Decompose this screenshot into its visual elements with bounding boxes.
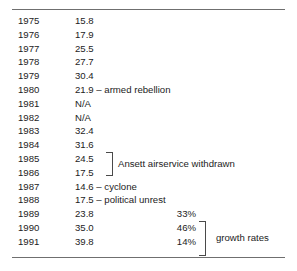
brace-growth-rates-icon — [199, 221, 206, 256]
cell-year: 1978 — [18, 55, 39, 69]
cell-year: 1984 — [18, 138, 39, 152]
table-row: 1981 N/A — [0, 97, 297, 111]
cell-percent: 14% — [152, 235, 196, 249]
table-row: 1979 30.4 — [0, 69, 297, 83]
table-row: 1984 31.6 — [0, 138, 297, 152]
table-row: 1987 14.6 – cyclone — [0, 180, 297, 194]
cell-value: 23.8 — [75, 207, 94, 221]
cell-value: 14.6 – cyclone — [75, 180, 137, 194]
cell-year: 1991 — [18, 235, 39, 249]
table-row: 1989 23.8 33% — [0, 207, 297, 221]
cell-value: 15.8 — [75, 14, 94, 28]
cell-year: 1988 — [18, 193, 39, 207]
table-row: 1980 21.9 – armed rebellion — [0, 83, 297, 97]
cell-year: 1980 — [18, 83, 39, 97]
cell-value: 21.9 – armed rebellion — [75, 83, 170, 97]
table-top-rule — [12, 9, 285, 10]
table-bottom-rule — [12, 257, 285, 258]
cell-year: 1983 — [18, 124, 39, 138]
cell-value: N/A — [75, 111, 91, 125]
cell-year: 1986 — [18, 166, 39, 180]
cell-value: 17.5 — [75, 166, 94, 180]
data-table-figure: 1975 15.8 1976 17.9 1977 25.5 1978 27.7 … — [0, 0, 297, 271]
cell-value: 17.5 – political unrest — [75, 193, 166, 207]
cell-percent: 33% — [152, 207, 196, 221]
cell-percent: 46% — [152, 221, 196, 235]
annotation-growth-rates: growth rates — [216, 232, 269, 244]
cell-year: 1979 — [18, 69, 39, 83]
cell-value: N/A — [75, 97, 91, 111]
cell-value: 31.6 — [75, 138, 94, 152]
cell-value: 39.8 — [75, 235, 94, 249]
cell-year: 1985 — [18, 152, 39, 166]
table-row: 1988 17.5 – political unrest — [0, 193, 297, 207]
cell-year: 1975 — [18, 14, 39, 28]
cell-value: 35.0 — [75, 221, 94, 235]
cell-year: 1977 — [18, 42, 39, 56]
cell-value: 27.7 — [75, 55, 94, 69]
table-row: 1977 25.5 — [0, 42, 297, 56]
annotation-ansett: Ansett airservice withdrawn — [118, 158, 235, 170]
brace-ansett-icon — [106, 152, 113, 176]
table-row: 1982 N/A — [0, 111, 297, 125]
cell-value: 24.5 — [75, 152, 94, 166]
cell-year: 1989 — [18, 207, 39, 221]
cell-value: 32.4 — [75, 124, 94, 138]
cell-value: 25.5 — [75, 42, 94, 56]
table-row: 1976 17.9 — [0, 28, 297, 42]
cell-year: 1990 — [18, 221, 39, 235]
cell-year: 1987 — [18, 180, 39, 194]
cell-value: 30.4 — [75, 69, 94, 83]
table-row: 1983 32.4 — [0, 124, 297, 138]
cell-year: 1982 — [18, 111, 39, 125]
table-row: 1975 15.8 — [0, 14, 297, 28]
cell-year: 1981 — [18, 97, 39, 111]
table-body: 1975 15.8 1976 17.9 1977 25.5 1978 27.7 … — [0, 14, 297, 249]
table-row: 1978 27.7 — [0, 55, 297, 69]
cell-year: 1976 — [18, 28, 39, 42]
cell-value: 17.9 — [75, 28, 94, 42]
